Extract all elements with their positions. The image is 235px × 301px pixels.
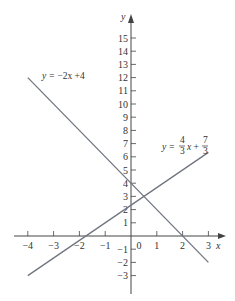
axes: xy−4−3−2−10123−3−2−112345678910111213141… bbox=[14, 11, 226, 294]
x-tick-label: −3 bbox=[48, 240, 59, 251]
y-tick-label: 12 bbox=[118, 72, 128, 83]
y-tick-label: −1 bbox=[117, 244, 128, 255]
y-tick-label: 7 bbox=[123, 138, 128, 149]
y-tick-label: 15 bbox=[118, 33, 128, 44]
x-tick-label: 0 bbox=[137, 240, 142, 251]
x-tick-label: 2 bbox=[180, 240, 185, 251]
svg-text:y =: y = bbox=[161, 142, 175, 152]
x-axis-arrow-icon bbox=[218, 233, 226, 239]
y-axis-label: y bbox=[120, 11, 126, 22]
y-tick-label: −2 bbox=[117, 257, 128, 268]
y-tick-label: 9 bbox=[123, 112, 128, 123]
svg-text:3: 3 bbox=[203, 146, 208, 156]
svg-text:3: 3 bbox=[180, 146, 185, 156]
y-axis-arrow-icon bbox=[128, 14, 134, 23]
equation-label-line2: y = 4 3 x + 7 3 bbox=[161, 135, 208, 156]
y-tick-label: 3 bbox=[123, 191, 128, 202]
y-tick-label: 6 bbox=[123, 151, 128, 162]
y-tick-label: 10 bbox=[118, 99, 128, 110]
y-tick-label: 11 bbox=[118, 85, 128, 96]
y-tick-label: 5 bbox=[123, 165, 128, 176]
x-tick-label: 1 bbox=[154, 240, 159, 251]
x-tick-label: 3 bbox=[206, 240, 211, 251]
x-axis-label: x bbox=[215, 240, 221, 251]
y-tick-label: 1 bbox=[123, 217, 128, 228]
chart: xy−4−3−2−10123−3−2−112345678910111213141… bbox=[0, 0, 235, 301]
svg-text:x +: x + bbox=[186, 142, 199, 152]
x-tick-label: −4 bbox=[22, 240, 33, 251]
y-tick-label: 14 bbox=[118, 46, 128, 57]
x-tick-label: −1 bbox=[100, 240, 111, 251]
svg-text:7: 7 bbox=[203, 135, 208, 145]
y-tick-label: −3 bbox=[117, 270, 128, 281]
y-tick-label: 8 bbox=[123, 125, 128, 136]
x-tick-label: −2 bbox=[74, 240, 85, 251]
equation-label-line1: y = −2x +4 bbox=[41, 71, 85, 81]
y-tick-label: 13 bbox=[118, 59, 128, 70]
svg-text:4: 4 bbox=[180, 135, 185, 145]
